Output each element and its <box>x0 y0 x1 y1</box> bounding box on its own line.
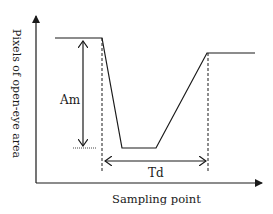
amplitude-label: Am <box>59 93 81 107</box>
y-axis-label: Pixels of open-eye area <box>10 29 23 159</box>
duration-label: Td <box>148 166 164 180</box>
open-eye-area-curve <box>55 38 255 148</box>
blink-waveform-diagram: Am Td Sampling point Pixels of open-eye … <box>0 0 273 214</box>
x-axis-label: Sampling point <box>112 192 201 206</box>
